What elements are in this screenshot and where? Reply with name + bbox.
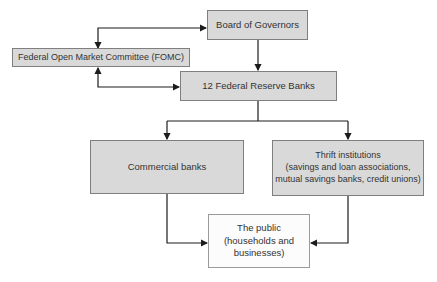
edge-fomc-board <box>98 28 206 48</box>
edge-thrift-public <box>311 196 348 243</box>
node-thrift-institutions: Thrift institutions (savings and loan as… <box>272 140 424 196</box>
node-the-public: The public (households and businesses) <box>208 214 310 268</box>
edge-commercial-public <box>167 194 207 243</box>
edge-reserve-split <box>167 101 348 121</box>
node-commercial-banks: Commercial banks <box>90 140 244 194</box>
edge-fomc-reserve <box>98 68 179 87</box>
node-fomc: Federal Open Market Committee (FOMC) <box>12 48 190 67</box>
node-board-of-governors: Board of Governors <box>207 10 308 40</box>
node-federal-reserve-banks: 12 Federal Reserve Banks <box>180 71 337 101</box>
federal-reserve-structure-diagram: Board of Governors Federal Open Market C… <box>0 0 437 282</box>
